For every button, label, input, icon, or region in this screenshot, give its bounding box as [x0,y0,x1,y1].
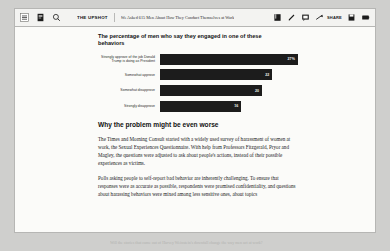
bar-fill[interactable]: 22 [160,69,272,80]
bookmark-icon[interactable] [273,13,282,22]
article-paragraph: The Times and Morning Consult started wi… [98,135,298,167]
bar-track: 20 [160,85,298,96]
bar-fill[interactable]: 16 [160,101,241,112]
bar-value-label: 16 [234,104,238,108]
bar-category-label: Somewhat disapprove [98,88,160,92]
bar-chart: Strongly approve of the job Donald Trump… [98,54,298,112]
article-headline[interactable]: We Asked 615 Men About How They Conduct … [121,15,235,20]
edit-icon[interactable] [287,13,296,22]
share-button-label[interactable]: SHARE [327,15,342,20]
chart-bar-row: Strongly approve of the job Donald Trump… [98,54,298,65]
bar-fill[interactable]: 20 [160,85,262,96]
article-page: The percentage of men who say they engag… [14,26,376,233]
hamburger-menu-icon[interactable] [20,13,29,22]
bar-value-label: 27% [288,57,296,61]
toolbar-divider [114,13,115,22]
nyt-logo-icon[interactable] [36,13,45,22]
bar-track: 16 [160,101,298,112]
chart-bar-row: Somewhat approve 22 [98,69,298,80]
bar-track: 22 [160,69,298,80]
screenshot-root: THE UPSHOT We Asked 615 Men About How Th… [0,0,390,251]
bar-category-label: Strongly disapprove [98,104,160,108]
bar-track: 27% [160,54,298,65]
reader-toolbar: THE UPSHOT We Asked 615 Men About How Th… [14,8,376,26]
bar-value-label: 22 [265,73,269,77]
bar-category-label: Strongly approve of the job Donald Trump… [98,55,160,63]
toolbar-title-group: THE UPSHOT We Asked 615 Men About How Th… [77,13,273,22]
comment-icon[interactable] [301,13,310,22]
toolbar-right-group: SHARE [273,13,370,22]
chart-title: The percentage of men who say they engag… [98,33,270,48]
chart-bar-row: Somewhat disapprove 20 [98,85,298,96]
bar-value-label: 20 [255,89,259,93]
more-icon[interactable] [361,13,370,22]
section-brand[interactable]: THE UPSHOT [77,15,108,20]
chart-bar-row: Strongly disapprove 16 [98,101,298,112]
toolbar-left-group [20,13,61,22]
article-content-column: The percentage of men who say they engag… [98,33,298,205]
save-icon[interactable] [347,13,356,22]
share-arrow-icon[interactable] [315,13,324,22]
bar-category-label: Somewhat approve [98,73,160,77]
bar-fill[interactable]: 27% [160,54,298,65]
background-page-text: Will the stories that came out of Harvey… [110,240,340,245]
search-icon[interactable] [52,13,61,22]
article-paragraph: Polls asking people to self-report bad b… [98,174,298,198]
section-heading: Why the problem might be even worse [98,121,298,128]
